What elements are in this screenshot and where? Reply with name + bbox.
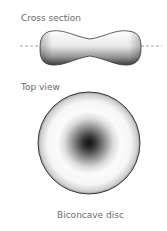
diagram-graphics	[0, 0, 167, 231]
top-view-shape	[38, 92, 140, 194]
cross-section-shape	[20, 31, 162, 65]
caption: Biconcave disc	[57, 210, 124, 220]
top-view-label: Top view	[21, 82, 60, 92]
